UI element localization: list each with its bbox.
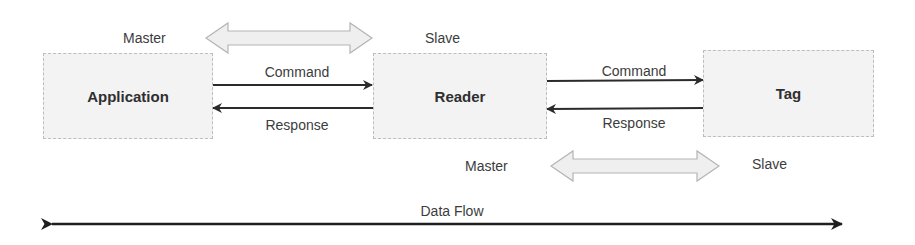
tag-label: Tag [776,85,802,102]
slave-label-top: Slave [425,30,460,46]
reader-label: Reader [435,88,486,105]
master-label-top: Master [123,30,166,46]
response-label-reader-tag: Response [602,115,665,131]
command-label-app-reader: Command [265,64,330,80]
application-label: Application [87,88,169,105]
response-arrow-tag-to-reader [547,108,704,109]
reader-node: Reader [373,53,547,139]
slave-label-bottom: Slave [752,156,787,172]
master-label-bottom: Master [465,158,508,174]
response-label-app-reader: Response [265,117,328,133]
master-slave-double-arrow-top [206,23,372,53]
data-flow-label: Data Flow [420,203,483,219]
command-arrow-reader-to-tag [546,80,703,81]
application-node: Application [43,53,213,139]
command-label-reader-tag: Command [602,63,667,79]
tag-node: Tag [703,50,874,137]
master-slave-double-arrow-bottom [551,151,719,181]
